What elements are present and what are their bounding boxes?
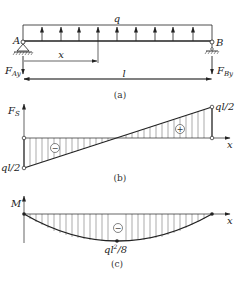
shear-y-label: FS <box>7 105 20 118</box>
beam-diagram: q A B FAy FBy x <box>0 0 240 290</box>
max-moment-value: ql2/8 <box>104 243 127 255</box>
svg-text:−: − <box>115 224 122 233</box>
reaction-a-label: FAy <box>4 65 22 78</box>
panel-b-shear-diagram: FS x ql/2 ql/2 − + (b) <box>1 101 234 183</box>
shear-x-label: x <box>227 139 233 150</box>
caption-a: (a) <box>114 90 126 100</box>
moment-y-label: M <box>10 198 22 209</box>
x-dimension-label: x <box>58 49 64 60</box>
caption-b: (b) <box>114 173 127 183</box>
load-arrow-icons <box>42 27 193 41</box>
reaction-b-label: FBy <box>216 65 234 78</box>
shear-line <box>24 107 212 168</box>
support-a-label: A <box>12 35 20 46</box>
panel-a-beam-loading: q A B FAy FBy x <box>4 13 234 100</box>
caption-c: (c) <box>111 259 123 269</box>
moment-x-label: x <box>227 215 233 226</box>
shear-right-value: ql/2 <box>215 101 234 112</box>
load-label: q <box>114 13 120 24</box>
length-label: l <box>122 68 125 79</box>
svg-text:−: − <box>52 144 59 153</box>
shear-left-value: ql/2 <box>1 162 20 173</box>
svg-text:+: + <box>177 125 184 134</box>
support-b-label: B <box>215 37 223 48</box>
distributed-load: q <box>23 13 212 41</box>
panel-c-moment-diagram: M x − ql2/8 (c) <box>10 196 233 269</box>
